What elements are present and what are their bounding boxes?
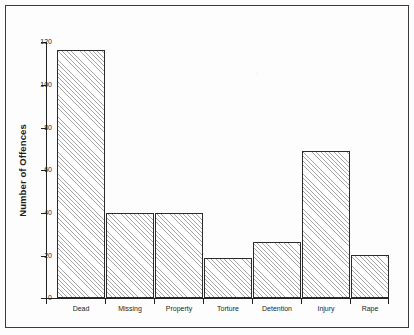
y-tick-mark-80 bbox=[41, 128, 46, 129]
x-tick-mark-7 bbox=[388, 299, 389, 304]
y-tick-80: 80 bbox=[22, 123, 52, 133]
x-axis-line bbox=[46, 298, 389, 299]
x-tick-mark-2 bbox=[154, 299, 155, 304]
bar-detention bbox=[253, 242, 301, 298]
bar-rape bbox=[351, 255, 389, 298]
y-tick-mark-120 bbox=[41, 42, 46, 43]
figure: Number of Offences 120 100 80 60 40 20 0 bbox=[0, 0, 414, 335]
y-tick-120: 120 bbox=[22, 37, 52, 47]
bar-injury bbox=[302, 151, 350, 298]
y-tick-20: 20 bbox=[22, 251, 52, 261]
x-tick-mark-1 bbox=[105, 299, 106, 304]
x-tick-mark-3 bbox=[203, 299, 204, 304]
x-tick-mark-4 bbox=[252, 299, 253, 304]
y-tick-100: 100 bbox=[22, 80, 52, 90]
x-tick-mark-6 bbox=[350, 299, 351, 304]
y-tick-mark-100 bbox=[41, 85, 46, 86]
y-tick-mark-60 bbox=[41, 170, 46, 171]
x-label-dead: Dead bbox=[73, 305, 90, 312]
x-label-detention: Detention bbox=[262, 305, 292, 312]
x-tick-mark-5 bbox=[301, 299, 302, 304]
y-tick-0: 0 bbox=[22, 293, 52, 303]
y-tick-mark-20 bbox=[41, 256, 46, 257]
x-label-missing: Missing bbox=[118, 305, 142, 312]
y-tick-mark-40 bbox=[41, 213, 46, 214]
x-label-torture: Torture bbox=[217, 305, 239, 312]
y-tick-60: 60 bbox=[22, 165, 52, 175]
x-label-injury: Injury bbox=[317, 305, 334, 312]
y-tick-40: 40 bbox=[22, 208, 52, 218]
bar-property bbox=[155, 213, 203, 298]
bar-dead bbox=[57, 50, 105, 298]
x-label-rape: Rape bbox=[362, 305, 379, 312]
x-tick-mark-0 bbox=[46, 299, 47, 304]
x-label-property: Property bbox=[166, 305, 192, 312]
bar-torture bbox=[204, 258, 252, 298]
bar-missing bbox=[106, 213, 154, 298]
